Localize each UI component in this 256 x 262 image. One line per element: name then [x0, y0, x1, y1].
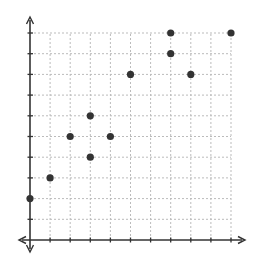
scatter-plot	[0, 0, 256, 262]
data-point	[47, 174, 54, 181]
axis-ticks	[28, 33, 232, 243]
data-point	[167, 29, 174, 36]
data-point	[87, 154, 94, 161]
data-point	[67, 133, 74, 140]
grid-lines	[30, 33, 231, 240]
data-point	[87, 112, 94, 119]
data-point	[227, 29, 234, 36]
data-point	[26, 195, 33, 202]
data-point	[187, 71, 194, 78]
data-point	[107, 133, 114, 140]
data-point	[167, 50, 174, 57]
data-point	[127, 71, 134, 78]
